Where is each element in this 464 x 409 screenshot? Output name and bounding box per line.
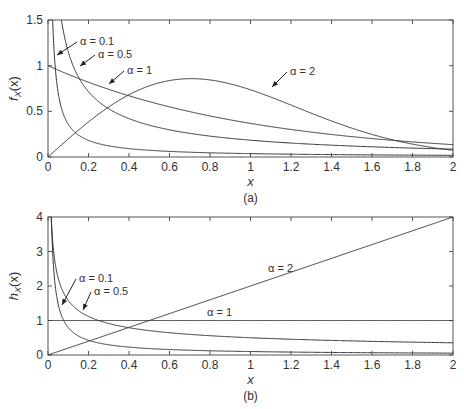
series-annotation: α = 1 [127,64,152,76]
y-tick-label: 4 [36,210,43,224]
figure: 00.20.40.60.811.21.41.61.8200.511.5x(a)f… [0,0,464,409]
x-tick-label: 1.4 [323,358,340,372]
series-annotation: α = 2 [290,65,315,77]
y-axis-label: hX(x) [6,272,23,300]
panel-caption: (b) [243,389,258,403]
series-annotation: α = 1 [207,306,232,318]
x-tick-label: 1 [247,358,254,372]
x-tick-label: 0.2 [80,358,97,372]
arrowhead-icon [57,50,63,55]
panel-b-hazard: 00.20.40.60.811.21.41.61.8201234x(b)hX(x… [6,0,457,403]
x-tick-label: 1.8 [404,160,421,174]
series-annotation: α = 2 [268,262,293,274]
y-tick-label: 1 [36,59,43,73]
x-tick-label: 2 [450,358,457,372]
x-tick-label: 1.2 [283,358,300,372]
series-annotation: α = 0.5 [94,285,128,297]
y-tick-label: 1.5 [26,13,43,27]
x-tick-label: 1 [247,160,254,174]
x-tick-label: 0.2 [80,160,97,174]
series-annotation: α = 0.1 [79,272,113,284]
x-axis-label: x [246,372,254,387]
x-tick-label: 0.8 [202,358,219,372]
x-tick-label: 1.6 [364,160,381,174]
series-annotation: α = 0.1 [80,35,114,47]
x-tick-label: 0.6 [161,358,178,372]
x-tick-label: 2 [450,160,457,174]
y-tick-label: 1 [36,314,43,328]
y-tick-label: 2 [36,279,43,293]
x-tick-label: 0 [45,160,52,174]
x-tick-label: 0.4 [121,160,138,174]
x-tick-label: 0 [45,358,52,372]
x-axis-label: x [246,174,254,189]
panel-a-pdf: 00.20.40.60.811.21.41.61.8200.511.5x(a)f… [6,0,457,205]
y-tick-label: 0 [36,348,43,362]
arrowhead-icon [80,60,86,66]
x-tick-label: 1.8 [404,358,421,372]
x-tick-label: 1.6 [364,358,381,372]
series-line-alpha-1 [48,66,453,145]
panel-caption: (a) [243,191,258,205]
series-line-alpha-2 [48,79,453,157]
series-annotation: α = 0.5 [98,48,132,60]
x-tick-label: 0.8 [202,160,219,174]
x-tick-label: 1.4 [323,160,340,174]
y-tick-label: 0 [36,150,43,164]
x-tick-label: 1.2 [283,160,300,174]
y-tick-label: 3 [36,245,43,259]
y-axis-label: fX(x) [6,76,23,101]
y-tick-label: 0.5 [26,104,43,118]
x-tick-label: 0.6 [161,160,178,174]
x-tick-label: 0.4 [121,358,138,372]
